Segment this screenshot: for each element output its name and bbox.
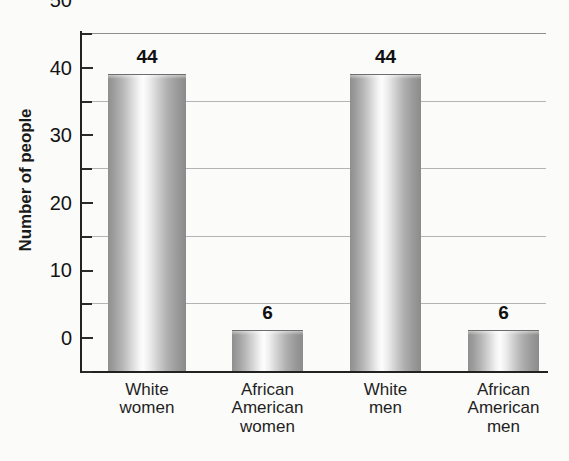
y-tick-40: [82, 101, 92, 103]
bar: [350, 74, 421, 371]
y-tick-15: [82, 270, 93, 272]
y-tick-30: [82, 168, 92, 170]
x-axis-label-2: Whitemen: [328, 381, 443, 418]
y-axis-tick-labels: 01020304050: [28, 0, 72, 338]
bar-value-label: 44: [108, 47, 186, 66]
bar-value-label: 6: [468, 303, 539, 322]
y-tick-label-10: 10: [32, 260, 72, 280]
x-axis-label-line: women: [210, 418, 325, 436]
x-axis-label-3: AfricanAmericanmen: [446, 381, 561, 436]
x-axis-label-1: AfricanAmericanwomen: [210, 381, 325, 436]
y-tick-label-0: 0: [32, 328, 72, 348]
bar: [468, 330, 539, 371]
x-axis-label-line: men: [328, 399, 443, 417]
bar-chart: Number of people 01020304050 446446 Whit…: [0, 0, 569, 461]
x-axis-label-0: Whitewomen: [86, 381, 208, 418]
y-tick-5: [82, 337, 93, 339]
x-axis-label-line: White: [328, 381, 443, 399]
y-tick-50: [82, 33, 92, 35]
bar: [232, 330, 303, 371]
plot-area: 446446: [82, 33, 546, 371]
x-axis-label-line: American: [446, 399, 561, 417]
x-axis-label-line: African: [446, 381, 561, 399]
x-axis-label-line: American: [210, 399, 325, 417]
x-axis-label-line: African: [210, 381, 325, 399]
y-tick-label-20: 20: [32, 193, 72, 213]
y-tick-label-30: 30: [32, 125, 72, 145]
x-axis-label-line: White: [86, 381, 208, 399]
x-axis-label-line: men: [446, 418, 561, 436]
y-tick-25: [82, 202, 93, 204]
x-axis-line: [80, 371, 548, 373]
y-tick-label-40: 40: [32, 58, 72, 78]
y-tick-35: [82, 134, 93, 136]
bar-value-label: 6: [232, 303, 303, 322]
y-tick-label-50: 50: [32, 0, 72, 10]
y-tick-0: [82, 371, 92, 373]
gridline-50: [82, 33, 546, 34]
y-tick-10: [82, 303, 92, 305]
bar: [108, 74, 186, 371]
bar-value-label: 44: [350, 47, 421, 66]
x-axis-label-line: women: [86, 399, 208, 417]
y-tick-45: [82, 67, 93, 69]
y-tick-20: [82, 236, 92, 238]
